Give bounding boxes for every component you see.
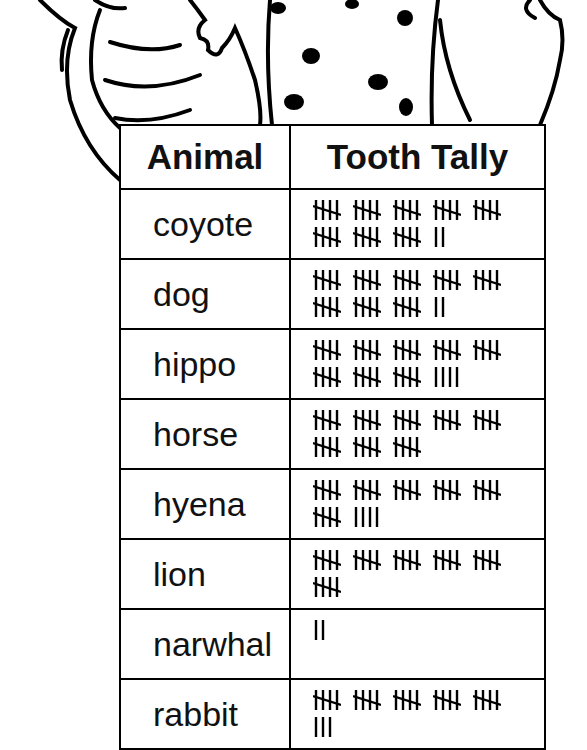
tally-group: [353, 338, 381, 362]
tally-group: [433, 268, 461, 292]
tally-group: [393, 225, 421, 249]
tally-group: [313, 505, 341, 529]
tally-line: [313, 616, 544, 643]
tally-marks: [290, 329, 545, 399]
tally-group: [353, 688, 381, 712]
tally-group: [433, 338, 461, 362]
tally-group: [433, 688, 461, 712]
animal-name: lion: [120, 539, 290, 609]
tally-group: [313, 435, 341, 459]
column-header-animal: Animal: [120, 125, 290, 189]
tally-marks: [290, 259, 545, 329]
tally-marks: [290, 469, 545, 539]
tally-group: [353, 225, 381, 249]
tally-group: [433, 548, 461, 572]
tally-line: [313, 336, 544, 363]
tally-group: [393, 198, 421, 222]
table-row: hyena: [120, 469, 545, 539]
tally-group: [313, 295, 341, 319]
tally-group: [313, 408, 341, 432]
tally-group: [353, 548, 381, 572]
tally-group: [473, 198, 501, 222]
table-header-row: Animal Tooth Tally: [120, 125, 545, 189]
tally-group: [393, 435, 421, 459]
tally-group: [313, 688, 341, 712]
tally-group: [353, 365, 381, 389]
tally-marks: [290, 399, 545, 469]
tally-group: [393, 478, 421, 502]
tally-group: [313, 198, 341, 222]
tally-group: [393, 365, 421, 389]
tally-group: [313, 618, 329, 642]
animal-name: hyena: [120, 469, 290, 539]
tally-line: [313, 433, 544, 460]
tally-group: [353, 295, 381, 319]
tally-marks: [290, 679, 545, 749]
tally-group: [393, 408, 421, 432]
table-row: dog: [120, 259, 545, 329]
tally-line: [313, 196, 544, 223]
tally-line: [313, 293, 544, 320]
tally-group: [473, 338, 501, 362]
tooth-tally-table: Animal Tooth Tally coyote dog hippo hors…: [119, 124, 546, 750]
tally-group: [313, 225, 341, 249]
tally-group: [433, 478, 461, 502]
animal-name: horse: [120, 399, 290, 469]
animal-name: dog: [120, 259, 290, 329]
tally-group: [473, 408, 501, 432]
column-header-tooth-tally: Tooth Tally: [290, 125, 545, 189]
table-row: rabbit: [120, 679, 545, 749]
animal-name: narwhal: [120, 609, 290, 679]
table-row: hippo: [120, 329, 545, 399]
tally-line: [313, 713, 544, 740]
tally-group: [353, 198, 381, 222]
tally-group: [353, 268, 381, 292]
tally-group: [473, 688, 501, 712]
table-row: horse: [120, 399, 545, 469]
tally-group: [393, 688, 421, 712]
tally-group: [473, 548, 501, 572]
tally-line: [313, 503, 544, 530]
tally-line: [313, 363, 544, 390]
tally-group: [433, 295, 449, 319]
tally-line: [313, 223, 544, 250]
tally-group: [433, 225, 449, 249]
tally-marks: [290, 539, 545, 609]
table-row: coyote: [120, 189, 545, 259]
tally-group: [433, 198, 461, 222]
tally-line: [313, 546, 544, 573]
animal-name: hippo: [120, 329, 290, 399]
tally-group: [353, 435, 381, 459]
tally-group: [353, 408, 381, 432]
tally-group: [353, 478, 381, 502]
tally-group: [433, 408, 461, 432]
tally-line: [313, 266, 544, 293]
tally-line: [313, 686, 544, 713]
table-row: lion: [120, 539, 545, 609]
tally-group: [473, 478, 501, 502]
animal-name: coyote: [120, 189, 290, 259]
tally-group: [393, 548, 421, 572]
tally-line: [313, 476, 544, 503]
animal-name: rabbit: [120, 679, 290, 749]
tally-group: [313, 715, 336, 739]
table-row: narwhal: [120, 609, 545, 679]
tally-group: [313, 338, 341, 362]
tally-group: [313, 268, 341, 292]
tally-group: [393, 295, 421, 319]
tally-group: [353, 505, 383, 529]
tally-line: [313, 573, 544, 600]
tally-group: [393, 268, 421, 292]
tally-line: [313, 406, 544, 433]
tally-group: [433, 365, 463, 389]
tally-group: [313, 548, 341, 572]
tally-group: [313, 478, 341, 502]
tally-marks: [290, 189, 545, 259]
tally-group: [313, 575, 341, 599]
tally-group: [313, 365, 341, 389]
tally-group: [393, 338, 421, 362]
tally-group: [473, 268, 501, 292]
tally-marks: [290, 609, 545, 679]
